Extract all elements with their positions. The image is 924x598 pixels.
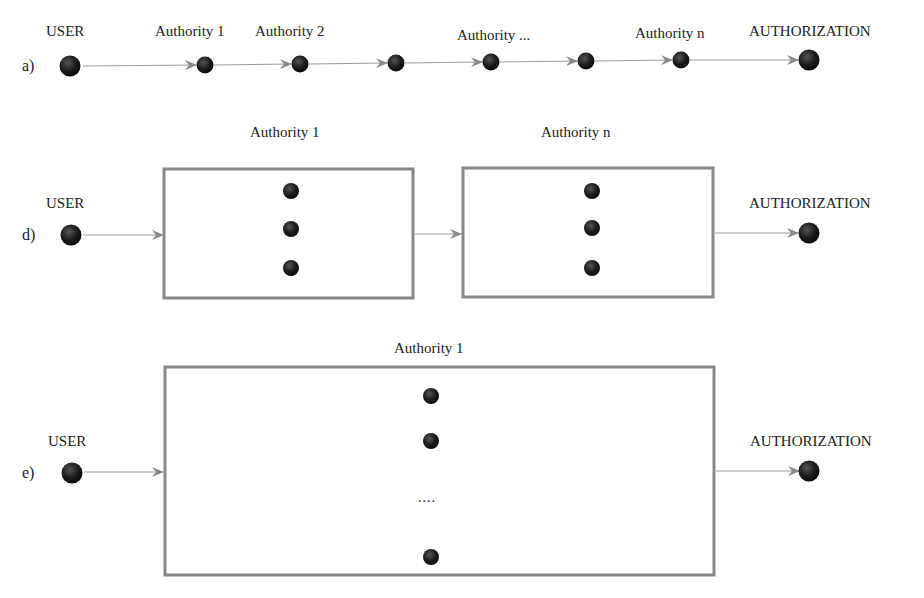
arrow xyxy=(214,64,291,65)
authority-node xyxy=(388,55,405,72)
authority-node xyxy=(423,388,439,404)
user-node xyxy=(62,463,83,484)
row-d-chain xyxy=(61,168,820,298)
authority-node xyxy=(584,220,600,236)
row-label-e: e) xyxy=(22,465,34,481)
user-node xyxy=(61,225,82,246)
authority-node xyxy=(423,433,439,449)
row-a-chain xyxy=(60,50,820,77)
arrow xyxy=(595,60,672,61)
user-label: USER xyxy=(46,196,84,211)
authorization-label: AUTHORIZATION xyxy=(749,196,871,211)
authority-label: Authority ... xyxy=(457,28,530,43)
arrow xyxy=(500,61,577,62)
authorization-node xyxy=(799,50,820,71)
authority-node xyxy=(578,53,595,70)
row-label-a: a) xyxy=(22,58,34,74)
arrow xyxy=(83,65,196,66)
authority-1-box xyxy=(165,367,714,575)
authority-1-label: Authority 1 xyxy=(250,125,320,140)
authorization-node xyxy=(799,223,820,244)
authority-node xyxy=(197,57,214,74)
user-node xyxy=(60,56,81,77)
authority-node xyxy=(673,52,690,69)
authority-node xyxy=(423,549,439,565)
arrow xyxy=(309,63,387,64)
authorization-diagram xyxy=(0,0,924,598)
authority-node xyxy=(283,260,299,276)
authority-n-label: Authority n xyxy=(541,125,611,140)
authority-node xyxy=(584,260,600,276)
row-e-chain xyxy=(62,367,820,575)
authorization-label: AUTHORIZATION xyxy=(750,434,872,449)
user-label: USER xyxy=(48,434,86,449)
authority-node xyxy=(283,183,299,199)
user-label: USER xyxy=(46,24,84,39)
authority-1-label: Authority 1 xyxy=(394,341,464,356)
authority-node xyxy=(283,221,299,237)
authority-label: Authority n xyxy=(635,26,705,41)
authority-node xyxy=(483,54,500,71)
authority-label: Authority 2 xyxy=(255,24,325,39)
arrow xyxy=(405,62,482,63)
authority-node xyxy=(584,183,600,199)
row-label-d: d) xyxy=(22,227,35,243)
authorization-node xyxy=(799,461,820,482)
authority-node xyxy=(292,56,309,73)
ellipsis: .... xyxy=(418,490,436,506)
authorization-label: AUTHORIZATION xyxy=(749,24,871,39)
authority-label: Authority 1 xyxy=(155,24,225,39)
